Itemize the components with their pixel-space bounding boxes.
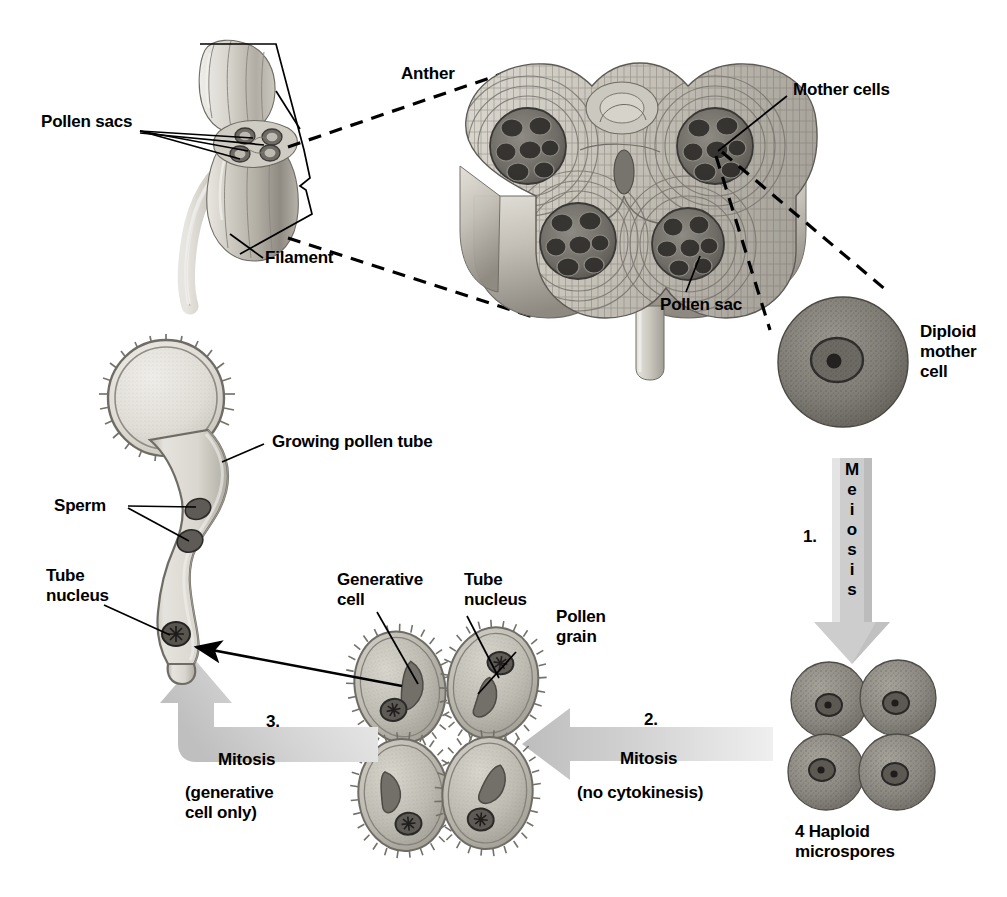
meiosis-letter-5: s (839, 540, 865, 560)
diploid-nucleolus (827, 354, 842, 369)
meiosis-letter-3: i (839, 500, 865, 520)
microspore-2 (860, 660, 936, 736)
label-tube-nucleus-left-line2: nucleus (46, 586, 109, 606)
label-pollen-grain-line2: grain (556, 627, 606, 647)
label-haploid-microspores: 4 Haploid microspores (795, 822, 895, 862)
label-diploid-line2: mother (920, 342, 976, 362)
step-3-qualifier: (generative cell only) (185, 783, 274, 823)
label-tube-nucleus-left: Tube nucleus (46, 566, 109, 606)
diploid-mother-cell (778, 297, 908, 427)
pollen-sac-upper-right (677, 108, 753, 184)
step-number-1: 1. (803, 527, 817, 547)
sperm-leader-1 (128, 506, 196, 507)
label-generative-cell-line2: cell (337, 590, 423, 610)
step-3-name: Mitosis (218, 750, 275, 770)
anther-cross-section (440, 50, 840, 380)
diagram-canvas: Anther Pollen sacs Filament Mother cells… (0, 0, 1007, 897)
haploid-microspores (788, 660, 936, 810)
step-2-name: Mitosis (620, 749, 677, 769)
label-tube-nucleus-mid-line2: nucleus (464, 590, 527, 610)
meiosis-arrow-label: M e i o s i s (839, 460, 865, 600)
step-number-2: 2. (644, 710, 658, 730)
label-filament: Filament (265, 248, 333, 268)
label-diploid-line3: cell (920, 362, 976, 382)
label-pollen-sacs: Pollen sacs (41, 112, 132, 132)
step-3-qualifier-line2: cell only) (185, 803, 274, 823)
growing-pollen-tube-illustration (99, 334, 235, 684)
label-generative-cell: Generative cell (337, 570, 423, 610)
anther-leader (276, 91, 300, 129)
microspore-3 (788, 734, 864, 810)
sperm-leader-2 (128, 508, 189, 541)
label-sperm: Sperm (54, 496, 106, 516)
label-haploid-line1: 4 Haploid (795, 822, 895, 842)
label-pollen-grain-line1: Pollen (556, 607, 606, 627)
label-diploid-mother-cell: Diploid mother cell (920, 322, 976, 382)
meiosis-letter-4: o (839, 520, 865, 540)
microspore-1 (791, 662, 867, 738)
label-pollen-grain: Pollen grain (556, 607, 606, 647)
label-tube-nucleus-left-line1: Tube (46, 566, 109, 586)
step-3-qualifier-line1: (generative (185, 783, 274, 803)
label-haploid-line2: microspores (795, 842, 895, 862)
meiosis-letter-7: s (839, 580, 865, 600)
pollen-sac-upper-left (490, 108, 566, 184)
microspore-4 (859, 734, 935, 810)
meiosis-letter-1: M (839, 460, 865, 480)
anther-lobe-rear (199, 40, 275, 133)
step-number-3: 3. (266, 712, 280, 732)
label-diploid-line1: Diploid (920, 322, 976, 342)
step-2-qualifier: (no cytokinesis) (577, 783, 703, 803)
pollen-sac-lower-left (540, 203, 616, 279)
label-tube-nucleus-mid: Tube nucleus (464, 570, 527, 610)
label-anther: Anther (401, 64, 455, 84)
label-pollen-sac: Pollen sac (660, 295, 742, 315)
label-mother-cells: Mother cells (793, 80, 890, 100)
label-tube-nucleus-mid-line1: Tube (464, 570, 527, 590)
growing-pollen-tube-leader (222, 444, 264, 462)
illustration-layer (0, 0, 1007, 897)
pollen-sac-lower-right (652, 208, 724, 280)
label-growing-pollen-tube: Growing pollen tube (272, 432, 433, 452)
label-generative-cell-line1: Generative (337, 570, 423, 590)
meiosis-letter-2: e (839, 480, 865, 500)
meiosis-letter-6: i (839, 560, 865, 580)
